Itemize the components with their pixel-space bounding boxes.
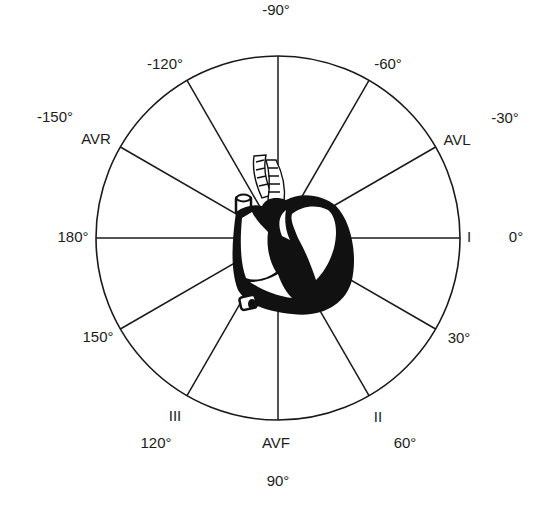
- degree-label-minus-150: -150°: [37, 109, 73, 125]
- degree-label-minus-30: -30°: [491, 110, 519, 126]
- lead-label-avf: AVF: [262, 435, 290, 451]
- lead-label-i: I: [467, 229, 471, 245]
- vena-cava-inferior-icon: [239, 294, 257, 310]
- degree-label-120: 120°: [140, 435, 171, 451]
- hexaxial-diagram: -90° -60° -30° 0° 30° 60° 90° 120° 150° …: [0, 0, 552, 518]
- lead-label-iii: III: [169, 408, 182, 424]
- degree-label-minus-60: -60°: [374, 56, 402, 72]
- lead-label-avl: AVL: [443, 132, 470, 148]
- degree-label-90: 90°: [267, 473, 290, 489]
- degree-label-minus-120: -120°: [147, 56, 183, 72]
- degree-label-60: 60°: [394, 435, 417, 451]
- degree-label-150: 150°: [82, 329, 113, 345]
- degree-label-0: 0°: [509, 229, 523, 245]
- heart-anatomical-icon: [233, 155, 355, 315]
- degree-label-180: 180°: [57, 229, 88, 245]
- aorta-vessel-icon: [253, 155, 284, 202]
- lead-label-ii: II: [374, 409, 382, 425]
- lead-label-avr: AVR: [81, 131, 111, 147]
- degree-label-minus-90: -90°: [262, 2, 290, 18]
- degree-label-30: 30°: [448, 330, 471, 346]
